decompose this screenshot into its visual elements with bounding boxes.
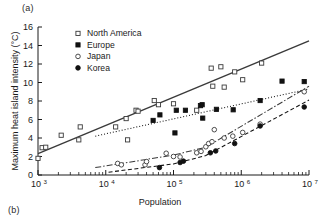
data-point-north-america	[211, 84, 215, 88]
data-point-north-america	[233, 70, 237, 74]
data-point-japan	[119, 163, 124, 168]
x-tick-exponent: 7	[315, 178, 319, 185]
trend-line-japan	[95, 86, 309, 167]
data-point-korea	[232, 141, 237, 146]
data-point-japan	[230, 134, 235, 139]
legend-label-japan: Japan	[87, 51, 111, 61]
data-point-europe	[200, 103, 204, 107]
data-point-north-america	[59, 133, 63, 137]
legend-label-north-america: North America	[87, 28, 142, 38]
data-point-japan	[178, 155, 183, 160]
data-point-europe	[258, 98, 262, 102]
data-point-europe	[151, 118, 155, 122]
data-point-korea	[208, 151, 213, 156]
x-tick-exponent: 3	[44, 178, 48, 185]
legend-label-korea: Korea	[87, 63, 110, 73]
data-point-north-america	[195, 108, 199, 112]
data-point-europe	[280, 79, 284, 83]
data-point-korea	[213, 149, 218, 154]
x-tick-label: 10	[99, 179, 109, 189]
figure-panel-a: (a) (b) Population Maximum heat island i…	[0, 0, 320, 222]
data-point-korea	[302, 105, 307, 110]
legend-marker-north-america	[76, 31, 80, 35]
legend-marker-europe	[76, 43, 80, 47]
scatter-plot: 0246810121416103104105106107North Americ…	[0, 0, 320, 222]
data-point-europe	[173, 131, 177, 135]
data-point-europe	[214, 107, 218, 111]
data-point-europe	[302, 79, 306, 83]
data-point-north-america	[114, 125, 118, 129]
data-point-japan	[210, 139, 215, 144]
data-point-japan	[240, 130, 245, 135]
data-point-japan	[212, 127, 217, 132]
data-point-north-america	[260, 61, 264, 65]
data-point-japan	[302, 89, 307, 94]
data-point-north-america	[78, 125, 82, 129]
data-point-europe	[183, 108, 187, 112]
x-tick-label: 10	[167, 179, 177, 189]
trend-line-europe	[95, 89, 309, 136]
x-tick-exponent: 6	[247, 178, 251, 185]
data-point-europe	[158, 113, 162, 117]
data-point-europe	[231, 108, 235, 112]
data-point-north-america	[124, 116, 128, 120]
data-point-korea	[181, 159, 186, 164]
x-tick-exponent: 4	[111, 178, 115, 185]
data-point-north-america	[209, 66, 213, 70]
y-tick-label: 8	[28, 96, 33, 106]
x-tick-label: 10	[302, 179, 312, 189]
data-point-north-america	[219, 65, 223, 69]
data-point-north-america	[125, 138, 129, 142]
y-tick-label: 6	[28, 115, 33, 125]
data-point-japan	[164, 151, 169, 156]
y-tick-label: 16	[23, 22, 33, 32]
x-tick-exponent: 5	[179, 178, 183, 185]
y-tick-label: 4	[28, 133, 33, 143]
data-point-north-america	[171, 102, 175, 106]
data-point-japan	[222, 136, 227, 141]
x-tick-label: 10	[234, 179, 244, 189]
data-point-north-america	[222, 85, 226, 89]
legend-label-europe: Europe	[87, 40, 115, 50]
y-tick-label: 14	[23, 41, 33, 51]
data-point-korea	[157, 165, 162, 170]
data-point-north-america	[36, 156, 40, 160]
data-point-north-america	[156, 103, 160, 107]
y-tick-label: 12	[23, 59, 33, 69]
data-point-japan	[171, 154, 176, 159]
data-point-japan	[199, 149, 204, 154]
data-point-north-america	[152, 98, 156, 102]
data-point-north-america	[77, 138, 81, 142]
y-tick-label: 10	[23, 78, 33, 88]
y-tick-label: 2	[28, 152, 33, 162]
data-point-north-america	[136, 109, 140, 113]
legend-marker-korea	[76, 66, 81, 71]
x-tick-label: 10	[31, 179, 41, 189]
data-point-europe	[174, 108, 178, 112]
data-point-north-america	[241, 78, 245, 82]
data-point-north-america	[44, 145, 48, 149]
data-point-europe	[201, 116, 205, 120]
data-point-korea	[258, 124, 263, 129]
data-point-japan	[144, 159, 149, 164]
legend-marker-japan	[76, 54, 81, 59]
